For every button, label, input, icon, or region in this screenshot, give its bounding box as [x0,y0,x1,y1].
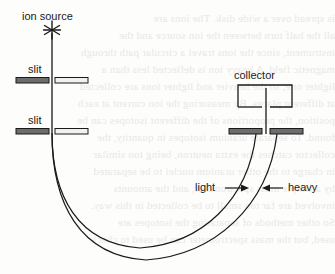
collector-box [238,85,292,107]
beam-path-light [52,133,256,248]
heavy-label: heavy [288,181,317,193]
beam-path-heavy [52,133,277,260]
ion-source-label: ion source [22,10,73,22]
diagram-canvas [0,0,335,274]
collector-label: collector [234,69,275,81]
slit-upper-label: slit [28,63,41,75]
light-label: light [195,181,215,193]
mass-spectrometer-figure: is spread over a wide disk. The ions are… [0,0,335,274]
heavy-arrow-icon [262,184,283,191]
slit-lower-label: slit [28,114,41,126]
